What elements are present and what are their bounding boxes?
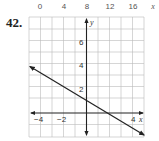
y-tick-2: 2 (79, 85, 84, 94)
y-tick-6: 6 (79, 38, 84, 47)
y-tick-4: 4 (79, 61, 84, 70)
x-tick-neg4: −4 (34, 115, 44, 124)
x-axis-label: x (138, 115, 143, 124)
x-tick-4: 4 (131, 115, 136, 124)
coordinate-graph: y 6 4 2 −4 −2 4 x (0, 0, 159, 141)
x-tick-neg2: −2 (57, 115, 67, 124)
y-axis-label: y (89, 18, 94, 27)
